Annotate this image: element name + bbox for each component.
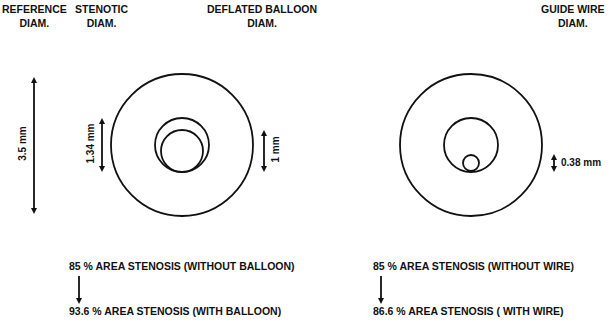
stenotic-lumen-circle-left: [155, 118, 209, 172]
reference-vessel-circle-right: [400, 74, 542, 216]
reference-vessel-circle-left: [111, 74, 253, 216]
left-stenosis-with-balloon: 93.6 % AREA STENOSIS (WITH BALLOON): [69, 305, 281, 317]
balloon-diam-label: 1 mm: [270, 135, 281, 165]
guidewire-diam-label: 0.38 mm: [561, 157, 601, 168]
stenotic-lumen-circle-right: [444, 118, 498, 172]
stenotic-diam-label: 1.34 mm: [85, 120, 96, 168]
deflated-balloon-circle: [161, 130, 203, 172]
right-stenosis-with-wire: 86.6 % AREA STENOSIS ( WITH WIRE): [373, 305, 564, 317]
stenosis-diagram: [0, 0, 611, 336]
reference-diam-label: 3.5 mm: [17, 124, 28, 164]
left-stenosis-without-balloon: 85 % AREA STENOSIS (WITHOUT BALLOON): [69, 260, 295, 272]
right-stenosis-without-wire: 85 % AREA STENOSIS (WITHOUT WIRE): [373, 260, 574, 272]
guide-wire-circle: [463, 155, 479, 171]
